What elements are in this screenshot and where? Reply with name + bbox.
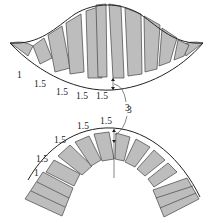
- figure-canvas: 1 1.5 1.5 1.5 1.5 3: [0, 0, 213, 223]
- bottom-label-4: 1.5: [77, 121, 89, 131]
- top-label-2: 1.5: [34, 79, 46, 89]
- top-label-4: 1.5: [76, 91, 88, 101]
- bottom-label-1: 1: [34, 168, 39, 178]
- top-diagram: 1 1.5 1.5 1.5 1.5 3: [10, 4, 203, 113]
- top-label-5: 1.5: [96, 91, 108, 101]
- bottom-label-5: 1.5: [100, 116, 112, 126]
- bottom-right-stack: [153, 178, 199, 217]
- bottom-label-2: 1.5: [36, 154, 48, 164]
- bottom-diagram: 1 1.5 1.5 1.5 1.5 3: [25, 105, 200, 217]
- arrow-head-icon: [112, 129, 116, 132]
- top-label-1: 1: [17, 70, 22, 80]
- top-label-3: 1.5: [56, 87, 68, 97]
- bottom-callout-leader: [115, 116, 127, 135]
- arrow-head-icon: [111, 78, 115, 81]
- top-callout-leader: [114, 84, 126, 102]
- bottom-label-3: 1.5: [54, 135, 66, 145]
- top-blocks: [33, 4, 189, 78]
- bottom-callout-label: 3: [127, 105, 132, 115]
